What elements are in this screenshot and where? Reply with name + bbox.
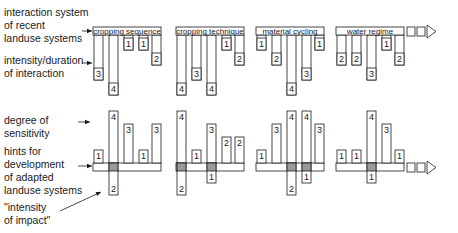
top-bar-value: 4 (289, 84, 294, 94)
sensitivity-value: 1 (259, 151, 264, 161)
overlap-shade (177, 163, 186, 171)
continuation-square (407, 163, 415, 172)
overlap-shade (287, 163, 296, 171)
sensitivity-value: 4 (369, 112, 374, 122)
continuation-square (407, 27, 415, 36)
top-bar-value: 3 (369, 69, 374, 79)
sensitivity-value: 4 (304, 112, 309, 122)
sensitivity-value: 3 (384, 125, 389, 135)
top-bar-value: 3 (194, 69, 199, 79)
arrow-interaction-system-head (87, 29, 92, 33)
sensitivity-value: 4 (289, 112, 294, 122)
continuation-square (417, 27, 425, 36)
top-bar-value: 4 (179, 84, 184, 94)
impact-value: 2 (289, 184, 294, 194)
top-bar-value: 2 (237, 54, 242, 64)
impact-value: 2 (111, 184, 116, 194)
top-bar-value: 4 (111, 84, 116, 94)
group-title: cropping sequence (93, 27, 161, 36)
impact-value: 1 (369, 172, 374, 182)
sensitivity-value: 3 (126, 125, 131, 135)
impact-value: 1 (304, 172, 309, 182)
group-title: water regime (346, 27, 394, 36)
sensitivity-value: 3 (154, 125, 159, 135)
impact-value: 2 (179, 184, 184, 194)
continuation-arrow-icon (427, 161, 436, 174)
top-bar-value: 1 (384, 39, 389, 49)
sensitivity-value: 2 (224, 138, 229, 148)
arrow-hints-head (87, 164, 92, 168)
continuation-arrow-icon (427, 25, 436, 38)
sensitivity-value: 1 (354, 151, 359, 161)
impact-value: 1 (209, 172, 214, 182)
top-bar-value: 1 (141, 39, 146, 49)
top-bar-value: 2 (397, 54, 402, 64)
sensitivity-value: 4 (111, 112, 116, 122)
landuse-interaction-diagram: 34112cropping sequence43412cropping tech… (0, 0, 458, 233)
sensitivity-value: 1 (397, 151, 402, 161)
top-bar-value: 1 (126, 39, 131, 49)
overlap-shade (109, 163, 118, 171)
sensitivity-value: 1 (141, 151, 146, 161)
continuation-square (417, 163, 425, 172)
sensitivity-value: 3 (317, 125, 322, 135)
top-bar-value: 1 (259, 39, 264, 49)
sensitivity-value: 3 (274, 125, 279, 135)
top-bar-value: 1 (224, 39, 229, 49)
arrow-intensity-impact (60, 192, 101, 211)
sensitivity-value: 4 (179, 112, 184, 122)
baseline-bar (93, 163, 161, 171)
top-bar-value: 2 (354, 54, 359, 64)
arrow-intensity-duration-head (87, 61, 92, 65)
sensitivity-value: 3 (209, 125, 214, 135)
top-bar-value: 1 (317, 39, 322, 49)
overlap-shade (367, 163, 376, 171)
overlap-shade (302, 163, 311, 171)
top-bar-value: 3 (96, 69, 101, 79)
top-bar-value: 2 (154, 54, 159, 64)
top-bar-value: 4 (209, 84, 214, 94)
group-title: material cycling (262, 27, 317, 36)
sensitivity-value: 1 (339, 151, 344, 161)
top-bar-value: 2 (339, 54, 344, 64)
top-bar-value: 3 (304, 69, 309, 79)
sensitivity-value: 1 (96, 151, 101, 161)
group-title: cropping technique (176, 27, 244, 36)
arrow-degree-sensitivity-head (85, 120, 90, 124)
sensitivity-value: 1 (194, 151, 199, 161)
top-bar-value: 2 (274, 54, 279, 64)
sensitivity-value: 2 (237, 138, 242, 148)
overlap-shade (207, 163, 216, 171)
